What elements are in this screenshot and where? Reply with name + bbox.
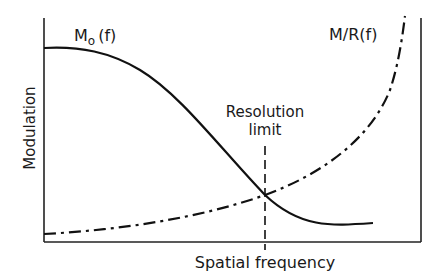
y-axis-label: Modulation	[21, 86, 39, 169]
x-axis-label: Spatial frequency	[195, 253, 335, 272]
modulation-diagram: Mo(f) M/R(f) Resolution limit Spatial fr…	[0, 0, 445, 279]
resolution-label-line2: limit	[249, 121, 282, 139]
mr-curve	[44, 16, 405, 234]
mr-label: M/R(f)	[329, 25, 377, 44]
resolution-label-line1: Resolution	[226, 103, 304, 121]
m0-label: Mo(f)	[74, 26, 116, 48]
m0-curve	[44, 48, 373, 225]
